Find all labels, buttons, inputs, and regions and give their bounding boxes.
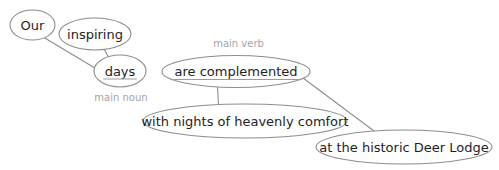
annotation-main-noun: main noun xyxy=(94,92,147,103)
node-are-complemented: are complemented xyxy=(162,56,310,88)
node-days: days xyxy=(94,55,146,87)
node-label-inspiring: inspiring xyxy=(67,27,123,42)
node-label-days: days xyxy=(105,64,136,79)
node-label-with-nights-of-heavenly-comfort: with nights of heavenly comfort xyxy=(141,114,348,129)
node-our: Our xyxy=(10,10,55,40)
node-at-the-historic-deer-lodge: at the historic Deer Lodge xyxy=(316,130,492,164)
annotation-main-verb: main verb xyxy=(213,38,264,49)
edge-are-complemented--with-nights-of-heavenly-comfort xyxy=(218,87,219,106)
node-inspiring: inspiring xyxy=(59,18,131,50)
node-label-our: Our xyxy=(21,18,45,33)
node-label-are-complemented: are complemented xyxy=(174,64,297,79)
node-label-at-the-historic-deer-lodge: at the historic Deer Lodge xyxy=(319,140,489,155)
diagram-canvas: Ourinspiringdaysare complementedwith nig… xyxy=(0,0,499,170)
node-with-nights-of-heavenly-comfort: with nights of heavenly comfort xyxy=(141,104,348,138)
sentence-diagram-svg: Ourinspiringdaysare complementedwith nig… xyxy=(0,0,499,170)
